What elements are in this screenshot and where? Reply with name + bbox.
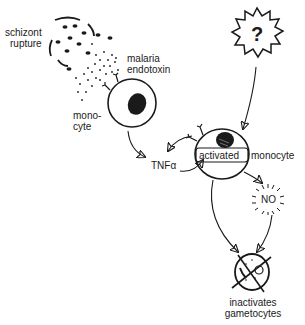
- schizont-rupture-shape: [50, 18, 113, 71]
- arrow-activated-to-tnf: [168, 136, 192, 151]
- gametocyte-inactivated: [232, 254, 271, 292]
- arrow-no-to-gametocytes: [257, 215, 272, 252]
- arrow-activated-to-gametocytes: [211, 180, 238, 252]
- nitric-oxide-label: NO: [261, 194, 276, 205]
- malaria-endotoxin-label: malaria endotoxin: [127, 53, 170, 75]
- unknown-stimulus-label: ?: [251, 24, 263, 44]
- monocyte-activated-label: monocyte: [251, 150, 294, 161]
- activated-label: activated: [199, 150, 239, 161]
- arrow-monocyte-to-tnf: [128, 131, 145, 157]
- schizont-rupture-label: schizont rupture: [5, 27, 42, 49]
- tnf-alpha-label: TNFα: [151, 160, 176, 171]
- arrow-unknown-to-activated: [243, 67, 256, 129]
- monocyte-label: mono- cyte: [73, 110, 101, 132]
- inactivates-gametocytes-label: inactivates gametocytes: [222, 297, 284, 319]
- monocyte-cell: [102, 73, 156, 127]
- arrow-activated-to-no: [244, 172, 262, 183]
